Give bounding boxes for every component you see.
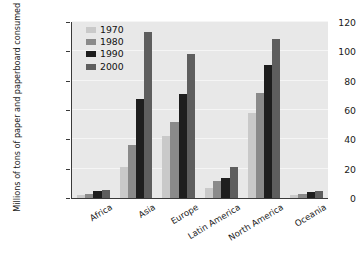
legend-item: 2000 <box>86 62 124 72</box>
bar <box>213 181 221 198</box>
y-axis-tick-mark <box>66 110 70 111</box>
bar <box>187 54 195 198</box>
y-axis-tick-label: 40 <box>290 134 356 145</box>
x-axis-label: Asia <box>137 202 158 220</box>
y-axis-tick-label: 120 <box>290 17 356 28</box>
bar <box>272 39 280 198</box>
bar <box>205 188 213 198</box>
bar <box>93 191 101 198</box>
legend-item: 1970 <box>86 25 124 35</box>
y-axis-title-wrapper: Millions of tons of paper and paperboard… <box>0 0 34 215</box>
bar-group <box>248 22 281 198</box>
legend-swatch-icon <box>86 39 96 45</box>
bar <box>179 94 187 198</box>
y-axis-tick-mark <box>66 22 70 23</box>
bar-group <box>120 22 153 198</box>
bar <box>144 32 152 198</box>
legend-item-label: 2000 <box>100 62 124 72</box>
bar-group <box>162 22 195 198</box>
y-axis-tick-label: 100 <box>290 46 356 57</box>
x-axis-label: Oceania <box>293 202 328 229</box>
bar-group <box>205 22 238 198</box>
legend-item-label: 1990 <box>100 49 124 59</box>
bar <box>256 93 264 198</box>
bar <box>264 65 272 198</box>
bar <box>162 136 170 198</box>
legend-item-label: 1970 <box>100 25 124 35</box>
y-axis-tick-label: 20 <box>290 163 356 174</box>
x-axis-label: Africa <box>88 202 114 223</box>
bar <box>136 99 144 198</box>
legend-item-label: 1980 <box>100 37 124 47</box>
bar <box>128 145 136 198</box>
bar <box>230 167 238 198</box>
y-axis-tick-mark <box>66 169 70 170</box>
y-axis-tick-label: 80 <box>290 75 356 86</box>
y-axis-tick-mark <box>66 198 70 199</box>
legend-item: 1990 <box>86 49 124 59</box>
y-axis-line <box>71 22 72 199</box>
legend-item: 1980 <box>86 37 124 47</box>
bar <box>120 167 128 198</box>
y-axis-tick-mark <box>66 81 70 82</box>
bar-chart: Millions of tons of paper and paperboard… <box>0 0 356 253</box>
legend-swatch-icon <box>86 51 96 57</box>
y-axis-title: Millions of tons of paper and paperboard… <box>12 3 23 212</box>
x-axis-label: Europe <box>169 202 200 226</box>
y-axis-tick-mark <box>66 139 70 140</box>
y-axis-tick-label: 60 <box>290 105 356 116</box>
bar <box>221 178 229 198</box>
legend: 1970198019902000 <box>86 25 124 72</box>
legend-swatch-icon <box>86 27 96 33</box>
bar <box>102 190 110 198</box>
legend-swatch-icon <box>86 64 96 70</box>
y-axis-tick-mark <box>66 51 70 52</box>
bar <box>170 122 178 198</box>
bar <box>248 113 256 198</box>
